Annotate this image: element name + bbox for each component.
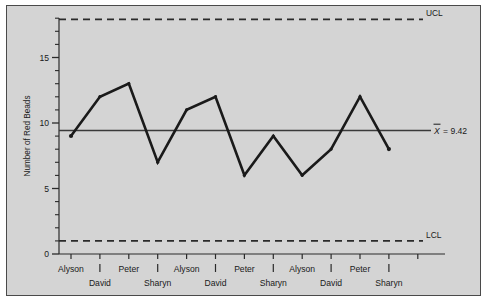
x-label-bottom-2: David: [205, 278, 227, 288]
data-point: [330, 148, 333, 151]
ucl-label: UCL: [426, 8, 443, 18]
x-label-top-3: Peter: [234, 264, 255, 274]
y-tick-label-0: 0: [44, 249, 49, 259]
center-line-symbol: X: [433, 126, 440, 136]
y-axis-title: Number of Red Beads: [23, 95, 32, 176]
data-point: [387, 147, 391, 151]
data-point: [214, 95, 217, 98]
x-label-bottom-5: Sharyn: [375, 278, 402, 288]
data-point: [301, 174, 304, 177]
x-label-top-0: Alyson: [58, 264, 84, 274]
data-point: [69, 134, 73, 138]
data-point: [127, 82, 130, 85]
x-ticks: [71, 254, 418, 259]
center-line-value: = 9.42: [443, 126, 467, 136]
x-label-bottom-1: Sharyn: [144, 278, 171, 288]
y-major-ticks: [52, 58, 59, 255]
x-label-top-2: Alyson: [174, 264, 200, 274]
x-label-top-5: Peter: [350, 264, 371, 274]
data-line: [71, 84, 389, 176]
lcl-label: LCL: [426, 230, 442, 240]
x-label-bottom-3: Sharyn: [260, 278, 287, 288]
data-point: [243, 174, 246, 177]
x-label-top-4: Alyson: [289, 264, 315, 274]
x-labels-row-bottom: David Sharyn David Sharyn David Sharyn: [89, 278, 403, 288]
center-line-label: X = 9.42: [433, 124, 467, 135]
x-label-bottom-4: David: [320, 278, 342, 288]
data-point: [156, 161, 159, 164]
data-point: [272, 134, 275, 137]
y-tick-label-10: 10: [39, 118, 49, 128]
data-point: [185, 108, 188, 111]
y-tick-label-5: 5: [44, 184, 49, 194]
x-label-top-1: Peter: [119, 264, 140, 274]
control-chart: 15 10 5 0 Number of Red Beads UCL LCL X …: [7, 6, 480, 295]
chart-frame: 15 10 5 0 Number of Red Beads UCL LCL X …: [6, 5, 481, 296]
x-label-bottom-0: David: [89, 278, 111, 288]
data-point: [98, 95, 101, 98]
x-labels-row-top: Alyson Peter Alyson Peter Alyson Peter: [58, 264, 370, 274]
y-tick-label-15: 15: [39, 53, 49, 63]
data-point: [358, 95, 361, 98]
